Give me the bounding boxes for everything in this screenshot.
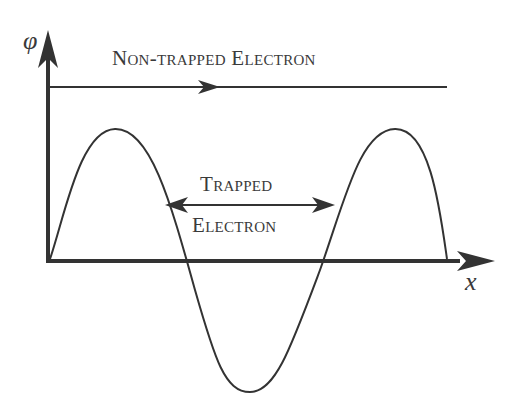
y-axis-label: φ (23, 26, 38, 56)
non-trapped-label: Non-trapped Electron (112, 46, 316, 71)
trapped-label-line1: Trapped (200, 172, 272, 197)
trapped-label-line2: Electron (192, 213, 276, 238)
x-axis-label: x (465, 267, 477, 297)
